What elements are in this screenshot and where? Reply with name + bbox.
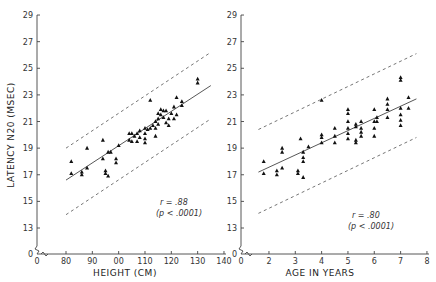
x-tick-label: 90 bbox=[87, 257, 97, 266]
figure: 01315171921232527290809000110120130140HE… bbox=[0, 0, 436, 282]
regression-line bbox=[258, 99, 416, 172]
data-point-triangle-icon bbox=[385, 97, 389, 101]
data-point-triangle-icon bbox=[130, 131, 134, 135]
data-point-triangle-icon bbox=[372, 134, 376, 138]
y-tick-label: 17 bbox=[23, 171, 33, 180]
y-tick-label: 25 bbox=[227, 64, 237, 73]
x-tick-label: 0 bbox=[34, 257, 39, 266]
data-point-triangle-icon bbox=[69, 159, 73, 163]
data-point-triangle-icon bbox=[138, 129, 142, 133]
age-scatter-panel: 013151719212325272902345678AGE IN YEARSr… bbox=[227, 11, 430, 278]
upper-confidence-line bbox=[258, 54, 416, 130]
y-tick-label: 15 bbox=[227, 197, 237, 206]
data-point-triangle-icon bbox=[85, 146, 89, 150]
y-axis-title: LATENCY N20 (MSEC) bbox=[6, 82, 16, 188]
data-point-triangle-icon bbox=[143, 131, 147, 135]
data-point-triangle-icon bbox=[385, 102, 389, 106]
data-point-triangle-icon bbox=[280, 166, 284, 170]
data-point-triangle-icon bbox=[399, 118, 403, 122]
y-tick-label: 15 bbox=[23, 197, 33, 206]
data-point-triangle-icon bbox=[196, 77, 200, 81]
data-point-triangle-icon bbox=[196, 81, 200, 85]
data-point-triangle-icon bbox=[172, 117, 176, 121]
y-tick-label: 0 bbox=[232, 250, 237, 259]
data-point-triangle-icon bbox=[385, 107, 389, 111]
x-tick-label: 4 bbox=[319, 257, 324, 266]
data-point-triangle-icon bbox=[372, 107, 376, 111]
p-value-annotation: (p < .0001) bbox=[348, 222, 394, 231]
data-point-triangle-icon bbox=[138, 135, 142, 139]
y-tick-label: 23 bbox=[23, 91, 33, 100]
y-tick-label: 0 bbox=[28, 250, 33, 259]
data-point-triangle-icon bbox=[359, 126, 363, 130]
data-point-triangle-icon bbox=[346, 107, 350, 111]
data-point-triangle-icon bbox=[275, 168, 279, 172]
data-point-triangle-icon bbox=[148, 98, 152, 102]
data-point-triangle-icon bbox=[301, 155, 305, 159]
data-point-triangle-icon bbox=[359, 130, 363, 134]
data-point-triangle-icon bbox=[399, 123, 403, 127]
data-point-triangle-icon bbox=[143, 137, 147, 141]
axis-break-icon bbox=[35, 246, 39, 254]
x-tick-label: 130 bbox=[190, 257, 205, 266]
data-point-triangle-icon bbox=[301, 159, 305, 163]
data-point-triangle-icon bbox=[280, 150, 284, 154]
data-point-triangle-icon bbox=[399, 113, 403, 117]
data-point-triangle-icon bbox=[375, 115, 379, 119]
data-point-triangle-icon bbox=[114, 160, 118, 164]
data-point-triangle-icon bbox=[346, 119, 350, 123]
data-point-triangle-icon bbox=[306, 145, 310, 149]
data-point-triangle-icon bbox=[175, 113, 179, 117]
x-tick-label: 140 bbox=[216, 257, 231, 266]
regression-line bbox=[66, 86, 211, 181]
data-point-triangle-icon bbox=[359, 134, 363, 138]
y-tick-label: 13 bbox=[227, 224, 237, 233]
x-tick-label: 110 bbox=[137, 257, 152, 266]
data-point-triangle-icon bbox=[275, 172, 279, 176]
data-point-triangle-icon bbox=[346, 131, 350, 135]
x-tick-label: 0 bbox=[238, 257, 243, 266]
x-axis-title: HEIGHT (CM) bbox=[93, 268, 157, 278]
data-point-triangle-icon bbox=[164, 121, 168, 125]
y-tick-label: 19 bbox=[227, 144, 237, 153]
axis-break-icon bbox=[239, 246, 243, 254]
data-point-triangle-icon bbox=[154, 134, 158, 138]
data-point-triangle-icon bbox=[135, 139, 139, 143]
y-tick-label: 23 bbox=[227, 91, 237, 100]
data-point-triangle-icon bbox=[114, 156, 118, 160]
data-point-triangle-icon bbox=[359, 119, 363, 123]
y-tick-label: 27 bbox=[23, 38, 33, 47]
x-tick-label: 7 bbox=[398, 257, 403, 266]
y-tick-label: 19 bbox=[23, 144, 33, 153]
data-point-triangle-icon bbox=[262, 171, 266, 175]
data-point-triangle-icon bbox=[180, 99, 184, 103]
height-scatter-panel: 01315171921232527290809000110120130140HE… bbox=[6, 11, 232, 278]
data-point-triangle-icon bbox=[407, 106, 411, 110]
data-point-triangle-icon bbox=[156, 117, 160, 121]
data-point-triangle-icon bbox=[164, 109, 168, 113]
data-point-triangle-icon bbox=[69, 171, 73, 175]
data-point-triangle-icon bbox=[172, 105, 176, 109]
correlation-annotation: r = .80 bbox=[352, 211, 380, 220]
data-point-triangle-icon bbox=[346, 126, 350, 130]
y-tick-label: 21 bbox=[227, 118, 237, 127]
data-point-triangle-icon bbox=[175, 95, 179, 99]
data-point-triangle-icon bbox=[299, 137, 303, 141]
x-axis-title: AGE IN YEARS bbox=[285, 268, 354, 278]
data-point-triangle-icon bbox=[280, 146, 284, 150]
data-point-triangle-icon bbox=[101, 138, 105, 142]
x-tick-label: 00 bbox=[114, 257, 124, 266]
x-tick-label: 8 bbox=[424, 257, 429, 266]
data-point-triangle-icon bbox=[262, 159, 266, 163]
data-point-triangle-icon bbox=[143, 141, 147, 145]
x-tick-label: 6 bbox=[372, 257, 377, 266]
data-point-triangle-icon bbox=[156, 111, 160, 115]
data-point-triangle-icon bbox=[159, 107, 163, 111]
data-point-triangle-icon bbox=[372, 126, 376, 130]
correlation-annotation: r = .88 bbox=[160, 198, 188, 207]
data-point-triangle-icon bbox=[333, 126, 337, 130]
x-tick-label: 80 bbox=[61, 257, 71, 266]
y-tick-label: 29 bbox=[227, 11, 237, 20]
y-tick-label: 25 bbox=[23, 64, 33, 73]
y-tick-label: 13 bbox=[23, 224, 33, 233]
